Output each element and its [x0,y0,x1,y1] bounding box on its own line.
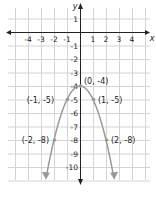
data-point [53,138,57,142]
y-tick-label: 1 [73,15,78,24]
x-tick-label: 4 [130,35,135,44]
y-axis-down-arrow-icon [78,179,83,185]
data-point [66,98,70,102]
x-tick-label: -3 [37,35,45,44]
x-tick-label: -2 [50,35,58,44]
point-label: (1, -5) [98,96,122,105]
y-axis-label: y [72,2,78,11]
parabola-graph: xy-4-3-2-112341-1-2-3-4-5-6-7-8-9-10(0, … [0,0,156,197]
point-label: (2, -8) [111,136,135,145]
x-axis-label: x [149,34,155,43]
curve-right-arrow-icon [110,172,118,180]
y-axis-up-arrow-icon [78,3,83,9]
data-point [105,138,109,142]
data-point [92,98,96,102]
x-tick-label: -4 [24,35,32,44]
y-tick-label: -9 [71,150,79,159]
y-tick-label: -3 [71,69,79,78]
y-tick-label: -7 [71,123,79,132]
point-label: (-1, -5) [27,96,54,105]
curve-left-arrow-icon [42,172,50,180]
y-tick-label: -6 [71,109,79,118]
y-tick-label: -2 [71,55,79,64]
point-label: (0, -4) [84,77,108,86]
data-point [79,84,83,88]
y-tick-label: -5 [71,96,79,105]
x-tick-label: 1 [91,35,96,44]
x-axis-left-arrow-icon [6,30,11,35]
point-label: (-2, -8) [22,136,49,145]
y-tick-label: -10 [66,163,78,172]
y-tick-label: -1 [71,42,79,51]
x-tick-label: 2 [104,35,109,44]
x-tick-label: 3 [117,35,122,44]
y-tick-label: -8 [71,136,79,145]
